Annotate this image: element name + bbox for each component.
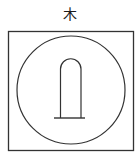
square-frame	[9, 32, 134, 151]
outer-circle	[17, 36, 125, 144]
pillar-in-circle-icon	[0, 0, 140, 165]
arched-pillar	[61, 59, 82, 118]
